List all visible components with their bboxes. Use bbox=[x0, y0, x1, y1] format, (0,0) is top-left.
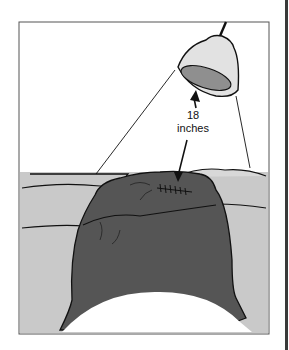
heat-lamp-illustration: 18 inches bbox=[0, 0, 289, 350]
distance-unit-label: inches bbox=[177, 122, 209, 134]
distance-value-label: 18 bbox=[187, 109, 199, 121]
